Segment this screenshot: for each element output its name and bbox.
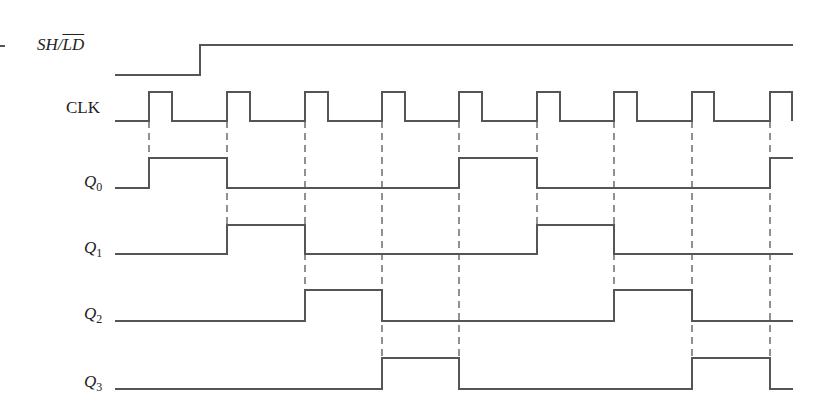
timing-diagram (0, 0, 833, 413)
waveform-q2 (115, 290, 793, 321)
waveform-q0 (115, 158, 793, 188)
waveform-sh-ld (115, 45, 793, 75)
label-q1-subscript: 1 (96, 246, 102, 260)
label-q-text: Q (84, 372, 96, 391)
label-q3: Q3 (84, 373, 102, 393)
label-sh-ld: SH/LD (37, 36, 84, 53)
waveforms (115, 45, 793, 389)
label-q-text: Q (84, 304, 96, 323)
waveform-q3 (115, 358, 793, 389)
waveform-q1 (115, 225, 793, 254)
label-q3-subscript: 3 (96, 380, 102, 394)
waveform-clk (115, 92, 792, 121)
label-q2-subscript: 2 (96, 312, 102, 326)
label-ld-overline-text: LD (63, 35, 85, 54)
label-clk: CLK (66, 99, 100, 116)
label-clk-text: CLK (66, 98, 100, 117)
label-q2: Q2 (84, 305, 102, 325)
label-q-text: Q (84, 172, 96, 191)
label-q-text: Q (84, 238, 96, 257)
label-q0-subscript: 0 (96, 180, 102, 194)
label-q0: Q0 (84, 173, 102, 193)
label-q1: Q1 (84, 239, 102, 259)
label-sh-text: SH/ (37, 35, 63, 54)
